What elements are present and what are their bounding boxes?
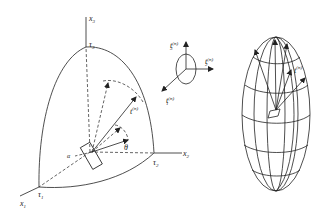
surface-element-right <box>268 109 280 118</box>
normal-vector <box>92 140 128 152</box>
vector-r2 <box>275 40 276 110</box>
parallel-2 <box>245 85 308 93</box>
x3-label: x3 <box>88 14 96 24</box>
t2-label: t(n)2 <box>205 57 213 67</box>
surface-element <box>80 142 102 169</box>
arc-tau3-tau2 <box>86 47 154 153</box>
dashed-x1 <box>39 152 90 187</box>
vector-dashed-2 <box>92 128 120 152</box>
stress-diagram: x3 τ3 x2 τ2 τ1 x1 t(n) θ α t(n)3 t(n)2 t… <box>0 0 336 217</box>
arc-tau1-tau2 <box>39 153 154 188</box>
ellipsoid-outline <box>242 37 310 191</box>
t1-arrow <box>162 69 186 91</box>
t3-label: t(n)3 <box>170 41 178 51</box>
left-panel: x3 τ3 x2 τ2 τ1 x1 t(n) θ α <box>19 14 190 209</box>
dashed-arc-lower <box>115 125 128 140</box>
tau2-label: τ2 <box>153 158 159 168</box>
x1-label: x1 <box>19 199 26 209</box>
meridian-1 <box>254 37 298 191</box>
right-panel: t(n) <box>242 37 310 191</box>
traction-vector <box>92 97 136 152</box>
tau1-label: τ1 <box>38 190 43 200</box>
meridian-2 <box>267 37 285 191</box>
x2-label: x2 <box>182 149 190 159</box>
x1-axis <box>20 187 39 196</box>
theta-label: θ <box>124 143 128 152</box>
dashed-x2 <box>90 152 154 153</box>
vector-r1 <box>255 50 276 110</box>
tau3-label: τ3 <box>89 40 95 50</box>
traction-label-right: t(n) <box>294 65 302 75</box>
arc-tau3-tau1 <box>39 47 86 187</box>
dashed-x3 <box>86 47 90 152</box>
traction-label: t(n) <box>130 106 138 116</box>
parallel-4 <box>244 145 308 153</box>
parallel-5 <box>252 170 300 176</box>
t1-label: t(n)1 <box>166 96 174 106</box>
middle-panel: t(n)3 t(n)2 t(n)1 <box>162 41 213 106</box>
alpha-label: α <box>67 153 71 159</box>
dashed-arc-upper <box>103 80 143 102</box>
